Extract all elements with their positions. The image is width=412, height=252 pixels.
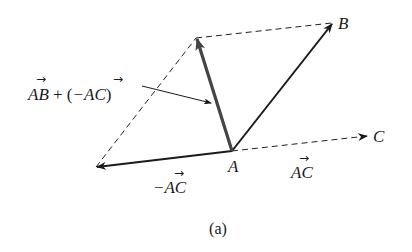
- vector-AB: [232, 24, 332, 151]
- vector-sum: [197, 39, 232, 151]
- dashed-edge-top: [196, 23, 332, 38]
- label-sum-vector: AB + (−AC): [27, 85, 111, 104]
- label-sum-close: ): [106, 85, 112, 104]
- vec-arrow-AB: →: [36, 72, 46, 86]
- vector-neg-AC: [97, 151, 232, 167]
- label-point-C: C: [373, 127, 385, 146]
- label-sum-neg-AC: −AC: [73, 85, 107, 104]
- label-point-B: B: [338, 14, 349, 33]
- label-vector-AC: AC: [290, 163, 313, 182]
- vector-AC: [232, 136, 367, 151]
- figure-caption: (a): [209, 220, 227, 238]
- label-vector-neg-AC: −AC: [153, 178, 187, 197]
- label-sum-plus: + (: [49, 85, 73, 104]
- label-sum-AB: AB: [27, 85, 49, 104]
- vec-arrow-sum-AC: →: [113, 72, 123, 86]
- label-point-A: A: [227, 157, 239, 176]
- vector-diagram: B C A → AC → −AC → → AB + (−AC) (a): [0, 0, 412, 252]
